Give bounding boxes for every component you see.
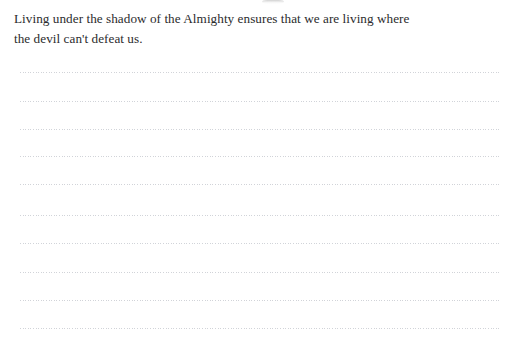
journal-page: Living under the shadow of the Almighty … bbox=[0, 0, 521, 341]
ruled-line bbox=[20, 243, 500, 244]
quote-line-1: Living under the shadow of the Almighty … bbox=[14, 9, 502, 29]
ruled-line bbox=[20, 129, 500, 130]
ruled-line bbox=[20, 300, 500, 301]
quote-block: Living under the shadow of the Almighty … bbox=[14, 9, 502, 49]
ruled-lines-group bbox=[0, 0, 521, 341]
clipped-text-remnant-artifact bbox=[262, 0, 284, 4]
ruled-line bbox=[20, 101, 500, 102]
ruled-line bbox=[20, 328, 500, 329]
ruled-line bbox=[20, 72, 500, 73]
quote-line-2: the devil can't defeat us. bbox=[14, 29, 502, 49]
ruled-line bbox=[20, 215, 500, 216]
ruled-line bbox=[20, 184, 500, 185]
ruled-line bbox=[20, 156, 500, 157]
ruled-line bbox=[20, 272, 500, 273]
